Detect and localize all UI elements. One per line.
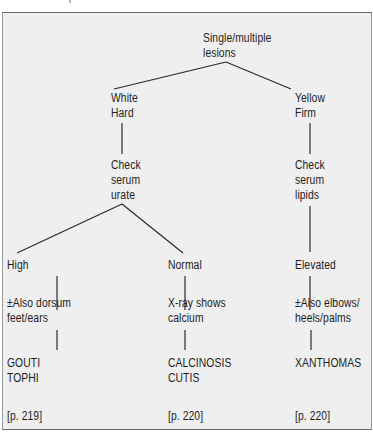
diagnosis-line: TOPHI [7,371,40,386]
diagnosis-line: GOUTI [7,356,40,371]
node-check-serum-lipids: Check serum lipids [295,158,325,203]
node-note-dorsum: ±Also dorsum feet/ears [7,296,71,326]
diagnosis-line: CALCINOSIS [168,356,231,371]
appearance-line: Firm [295,106,325,121]
note-line: feet/ears [7,311,71,326]
node-normal: Normal [168,258,202,273]
node-white-hard: White Hard [111,91,138,121]
appearance-line: Yellow [295,91,325,106]
appearance-line: Hard [111,106,138,121]
node-elevated: Elevated [295,258,336,273]
note-line: heels/palms [295,311,360,326]
test-line: serum [111,173,141,188]
connector-root-to-white [114,62,226,89]
diagnosis-line: XANTHOMAS [295,356,361,371]
node-note-xray: X-ray shows calcium [168,296,226,326]
page-ref-text: [p. 220] [168,409,203,424]
page-ref-text: [p. 219] [7,409,42,424]
note-line: ±Also dorsum [7,296,71,311]
result-label: Normal [168,258,202,273]
diagnosis-line: CUTIS [168,371,231,386]
node-diagnosis-gouti-tophi: GOUTI TOPHI [7,356,40,386]
connector-urate-to-normal [122,204,183,253]
note-line: calcium [168,311,226,326]
note-line: ±Also elbows/ [295,296,360,311]
result-label: High [7,258,29,273]
page-ref-text: [p. 220] [295,409,330,424]
test-line: serum [295,173,325,188]
node-check-serum-urate: Check serum urate [111,158,141,203]
page-ref-xanthomas: [p. 220] [295,409,330,424]
connector-root-to-yellow [226,62,291,89]
node-high: High [7,258,29,273]
root-line-2: lesions [203,46,271,61]
test-line: lipids [295,188,325,203]
root-line-1: Single/multiple [203,31,271,46]
test-line: Check [295,158,325,173]
node-diagnosis-calcinosis-cutis: CALCINOSIS CUTIS [168,356,231,386]
appearance-line: White [111,91,138,106]
result-label: Elevated [295,258,336,273]
connector-urate-to-high [17,204,122,253]
note-line: X-ray shows [168,296,226,311]
page-ref-calcinosis: [p. 220] [168,409,203,424]
test-line: urate [111,188,141,203]
node-yellow-firm: Yellow Firm [295,91,325,121]
test-line: Check [111,158,141,173]
node-diagnosis-xanthomas: XANTHOMAS [295,356,361,371]
page-ref-gout: [p. 219] [7,409,42,424]
node-root: Single/multiple lesions [203,31,271,61]
node-note-elbows: ±Also elbows/ heels/palms [295,296,360,326]
